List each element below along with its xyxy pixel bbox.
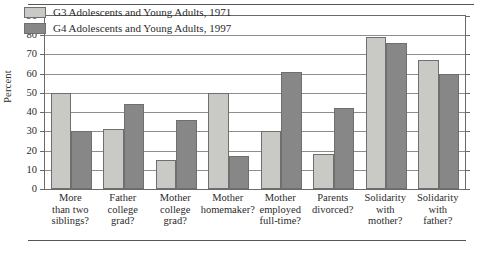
light-gray-swatch: [24, 7, 46, 18]
bar-group: [203, 16, 256, 189]
bar: [313, 154, 334, 189]
y-axis-tick-label: 30: [27, 126, 38, 137]
bar-chart-figure: Percent 9080706050403020100 G3 Adolescen…: [0, 0, 482, 255]
legend-item: G4 Adolescents and Young Adults, 1997: [24, 21, 231, 36]
bar-group: [308, 16, 361, 189]
bar: [156, 160, 177, 189]
chart-legend: G3 Adolescents and Young Adults, 1971G4 …: [24, 5, 231, 37]
x-axis-category-label-line: Solidarity: [406, 192, 471, 204]
y-axis-tick-right: [465, 74, 470, 75]
x-axis-category-label: Solidaritywithfather?: [406, 192, 471, 227]
y-axis-tick: [40, 189, 45, 190]
bottom-rule: [28, 240, 466, 241]
y-axis-tick-label: 0: [32, 184, 37, 195]
bar: [334, 108, 355, 189]
y-axis-tick-label: 60: [27, 68, 38, 79]
legend-item: G3 Adolescents and Young Adults, 1971: [24, 5, 231, 20]
bar: [103, 129, 124, 189]
bar: [439, 74, 460, 189]
y-axis-tick-label: 50: [27, 88, 38, 99]
y-axis-tick-right: [465, 189, 470, 190]
y-axis-tick-right: [465, 93, 470, 94]
bar: [176, 120, 197, 189]
y-axis-tick-label: 40: [27, 107, 38, 118]
bars-group: [45, 16, 465, 189]
bar: [418, 60, 439, 189]
y-axis-tick-right: [465, 54, 470, 55]
y-axis-tick-label: 20: [27, 145, 38, 156]
bar: [51, 93, 72, 189]
x-axis-category-label-line: grad?: [143, 215, 208, 227]
bar: [208, 93, 229, 189]
legend-item-label: G4 Adolescents and Young Adults, 1997: [53, 23, 231, 34]
y-axis-tick-label: 70: [27, 49, 38, 60]
y-axis-tick-right: [465, 16, 470, 17]
bar-group: [360, 16, 413, 189]
bar-group: [150, 16, 203, 189]
bar-group: [45, 16, 98, 189]
bar: [229, 156, 250, 189]
bar-group: [98, 16, 151, 189]
plot-area: 9080706050403020100: [44, 15, 466, 190]
x-axis-category-label-line: father?: [406, 215, 471, 227]
dark-gray-swatch: [24, 23, 46, 34]
y-axis-tick-right: [465, 35, 470, 36]
y-axis-tick-label: 10: [27, 165, 38, 176]
bar-group: [413, 16, 466, 189]
y-axis-tick-right: [465, 170, 470, 171]
y-axis-tick-right: [465, 112, 470, 113]
bar: [281, 72, 302, 189]
legend-item-label: G3 Adolescents and Young Adults, 1971: [53, 7, 231, 18]
y-axis-tick-right: [465, 131, 470, 132]
bar: [366, 37, 387, 189]
bar: [124, 104, 145, 189]
bar: [386, 43, 407, 189]
x-axis-category-label-line: full-time?: [248, 215, 313, 227]
y-axis-title: Percent: [2, 70, 13, 103]
y-axis-tick-right: [465, 151, 470, 152]
x-axis-category-label-line: with: [406, 204, 471, 216]
bar-group: [255, 16, 308, 189]
x-axis-labels: Morethan twosiblings?Fathercollegegrad?M…: [44, 192, 466, 238]
bar: [261, 131, 282, 189]
bar: [71, 131, 92, 189]
